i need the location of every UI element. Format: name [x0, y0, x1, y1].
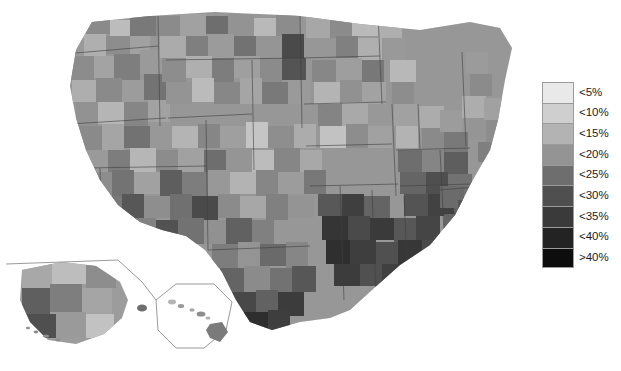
legend-label-lt20: <20% [579, 149, 609, 161]
legend-label-lt10: <10% [579, 107, 609, 119]
legend-item-lt30: <30% [542, 185, 621, 206]
us-county-choropleth [0, 0, 621, 371]
legend-item-lt20: <20% [542, 144, 621, 165]
legend-item-lt5: <5% [542, 82, 621, 103]
legend-swatch-lt40 [542, 227, 574, 248]
legend-label-lt30: <30% [579, 190, 609, 202]
legend-swatch-gt40 [542, 248, 574, 269]
legend-label-gt40: >40% [579, 252, 609, 264]
legend-swatch-lt25 [542, 165, 574, 186]
legend-swatch-lt20 [542, 144, 574, 165]
legend-item-lt40: <40% [542, 227, 621, 248]
legend-item-lt35: <35% [542, 206, 621, 227]
legend-item-lt10: <10% [542, 103, 621, 124]
legend-label-lt5: <5% [579, 87, 602, 99]
legend-swatch-lt35 [542, 206, 574, 227]
choropleth-legend: <5% <10% <15% <20% <25% <30% <35% [542, 82, 621, 270]
choropleth-map-figure: <5% <10% <15% <20% <25% <30% <35% [0, 0, 621, 371]
legend-item-lt15: <15% [542, 123, 621, 144]
legend-label-lt35: <35% [579, 211, 609, 223]
legend-item-lt25: <25% [542, 165, 621, 186]
legend-swatch-lt15 [542, 123, 574, 144]
legend-item-gt40: >40% [542, 248, 621, 269]
legend-label-lt25: <25% [579, 169, 609, 181]
legend-swatch-lt10 [542, 103, 574, 124]
hawaii-outlier-island [137, 304, 147, 311]
legend-swatch-lt30 [542, 185, 574, 206]
legend-label-lt40: <40% [579, 231, 609, 243]
legend-label-lt15: <15% [579, 128, 609, 140]
legend-swatch-lt5 [542, 82, 574, 103]
